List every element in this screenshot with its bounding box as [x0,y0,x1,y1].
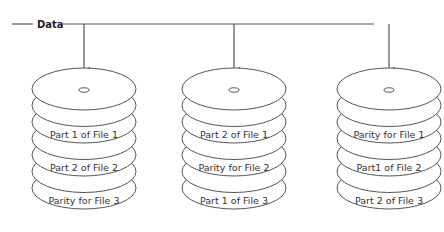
raid-diagram: Data Part 1 of File 1Part 2 of File 2Par… [0,0,444,232]
platter-label: Parity for File 1 [353,129,424,140]
platter-label: Part 2 of File 2 [50,162,118,173]
spindle-hole-icon [384,88,394,92]
platter-label: Part1 of File 2 [357,162,422,173]
platter-label: Part 2 of File 3 [355,195,423,206]
spindle-hole-icon [229,88,239,92]
platter-label: Part 1 of File 1 [50,129,118,140]
spindle-hole-icon [79,88,89,92]
disk-1-stack: Part 1 of File 1Part 2 of File 2Parity f… [32,24,136,209]
data-label: Data [37,19,64,30]
platter-label: Parity for File 3 [48,195,119,206]
platter-label: Part 2 of File 1 [200,129,268,140]
disk-3-stack: Parity for File 1Part1 of File 2Part 2 o… [337,24,441,209]
platter-label: Part 1 of File 3 [200,195,268,206]
disk-2-stack: Part 2 of File 1Parity for File 2Part 1 … [182,24,286,209]
platter-label: Parity for File 2 [198,162,269,173]
